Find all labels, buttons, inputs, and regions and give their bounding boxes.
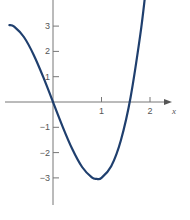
function-curve bbox=[9, 0, 145, 179]
x-axis-arrow-icon bbox=[164, 99, 172, 105]
y-tick-label: −3 bbox=[40, 173, 50, 183]
function-graph: 12 321−1−2−3 x bbox=[0, 0, 190, 220]
y-tick-label: −2 bbox=[40, 148, 50, 158]
x-tick-label: 2 bbox=[148, 106, 153, 116]
y-tick-label: 2 bbox=[45, 46, 50, 56]
y-tick-label: 1 bbox=[45, 72, 50, 82]
x-axis-label: x bbox=[171, 106, 176, 116]
y-tick-label: −1 bbox=[40, 122, 50, 132]
x-tick-label: 1 bbox=[99, 106, 104, 116]
y-tick-label: 3 bbox=[45, 21, 50, 31]
x-ticks: 12 bbox=[99, 97, 153, 116]
